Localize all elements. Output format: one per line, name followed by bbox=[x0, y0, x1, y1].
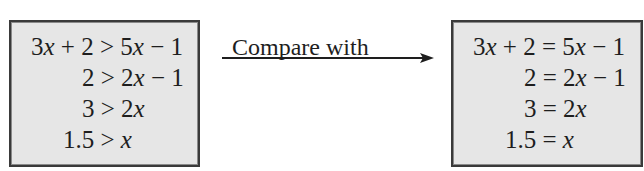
equation-line-2: 2 = 2x − 1 bbox=[524, 63, 626, 93]
equation-line-4: 1.5 = x bbox=[505, 125, 574, 155]
equation-line-1: 3x + 2 = 5x − 1 bbox=[473, 32, 625, 62]
inequality-line-4: 1.5 > x bbox=[63, 125, 132, 155]
right-arrow-icon bbox=[222, 52, 434, 64]
equation-line-3: 3 = 2x bbox=[524, 94, 587, 124]
inequality-line-2: 2 > 2x − 1 bbox=[82, 63, 184, 93]
inequality-line-3: 3 > 2x bbox=[82, 94, 145, 124]
equation-box: 3x + 2 = 5x − 1 2 = 2x − 1 3 = 2x 1.5 = … bbox=[451, 20, 643, 167]
inequality-box: 3x + 2 > 5x − 1 2 > 2x − 1 3 > 2x 1.5 > … bbox=[9, 20, 200, 167]
inequality-line-1: 3x + 2 > 5x − 1 bbox=[31, 32, 183, 62]
